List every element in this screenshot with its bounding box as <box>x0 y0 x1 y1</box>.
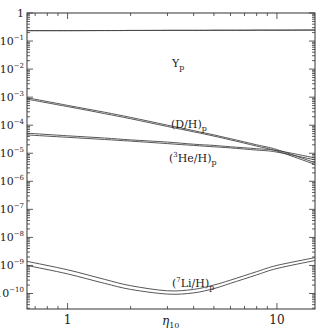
y-tick-label: 10−7 <box>0 202 24 216</box>
x-tick-label: 10 <box>269 313 284 327</box>
y-tick-label: 10−1 <box>0 34 24 48</box>
he3-curve-label: (3He/H)p <box>169 151 217 167</box>
y-tick-labels: 110−110−210−310−410−510−610−710−810−910−… <box>0 7 25 300</box>
y-tick-label: 10−5 <box>0 146 24 160</box>
x-tick-label: 1 <box>64 313 72 327</box>
y-tick-label: 1 <box>17 7 24 20</box>
y-tick-label: 10−8 <box>0 230 24 244</box>
yp-curve-label: Yp <box>171 57 184 72</box>
y-tick-label: 10−3 <box>0 90 24 104</box>
curve--7li-h-p-lower <box>27 261 315 295</box>
dh-curve-label: (D/H)p <box>171 118 207 133</box>
y-tick-label: 10−4 <box>0 118 25 132</box>
y-tick-label: 10−9 <box>0 258 24 272</box>
chart-canvas: 110−110−210−310−410−510−610−710−810−910−… <box>0 0 321 329</box>
y-tick-label: 10−2 <box>0 62 24 76</box>
y-tick-label: 10−6 <box>0 174 25 188</box>
y-tick-label: 10−10 <box>0 286 24 300</box>
bbn-abundance-chart: 110−110−210−310−410−510−610−710−810−910−… <box>0 0 321 329</box>
li7-curve-label: (7Li/H)p <box>172 276 214 292</box>
x-axis-label: η10 <box>162 314 179 329</box>
